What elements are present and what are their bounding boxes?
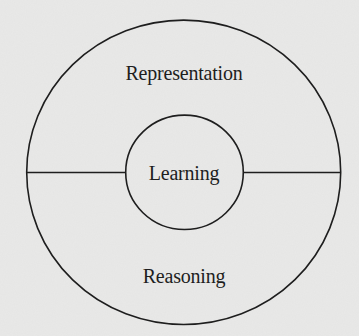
label-representation: Representation [125, 63, 242, 83]
label-reasoning: Reasoning [143, 266, 226, 286]
label-learning: Learning [149, 163, 220, 183]
diagram: Representation Learning Reasoning [0, 0, 359, 336]
